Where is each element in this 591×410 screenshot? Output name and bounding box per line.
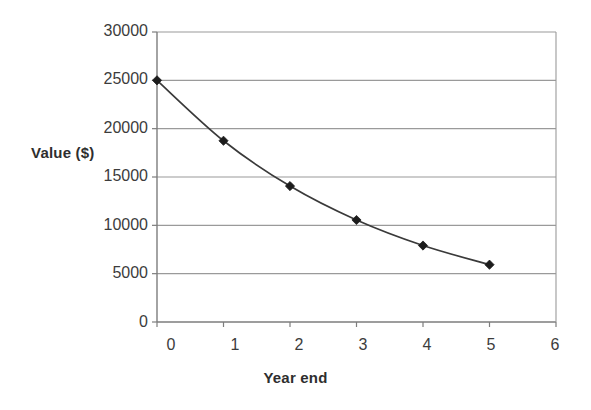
gridlines-group [157, 32, 556, 274]
data-point-markers [152, 76, 494, 270]
data-line-series-value [157, 80, 490, 264]
plot-area [0, 0, 591, 410]
data-point-marker-3 [352, 215, 361, 224]
tick-marks-group [152, 32, 556, 327]
data-point-marker-4 [418, 241, 427, 250]
data-point-marker-2 [285, 181, 294, 190]
data-point-marker-5 [485, 260, 494, 269]
chart-container: Value ($) Year end 30000 25000 20000 150… [0, 0, 591, 410]
